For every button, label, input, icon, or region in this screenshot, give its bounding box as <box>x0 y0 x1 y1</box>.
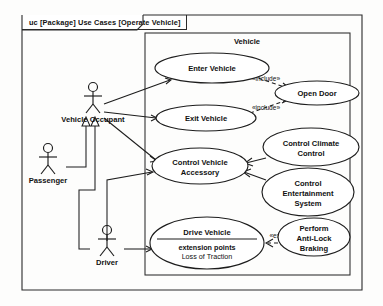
actor-driver-label: Driver <box>96 258 118 267</box>
use-case-control-entertainment-system-label-3: System <box>294 199 321 208</box>
use-case-perform-anti-lock-braking-label-1: Perform <box>299 224 328 233</box>
actor-driver-leg-right <box>107 247 114 256</box>
use-case-perform-anti-lock-braking-label-2: Anti-Lock <box>296 234 332 243</box>
use-case-control-entertainment-system-label-1: Control <box>295 179 322 188</box>
actor-vehicle-occupant-leg-right <box>93 104 100 113</box>
assoc-occupant-control-accessory <box>104 118 156 160</box>
system-boundary-label: Vehicle <box>234 37 260 46</box>
use-case-exit-vehicle-label: Exit Vehicle <box>185 114 227 123</box>
actor-passenger-label: Passenger <box>29 176 67 185</box>
use-case-control-entertainment-system-label-2: Entertainment <box>282 189 334 198</box>
use-case-control-vehicle-accessory-label-2: Accessory <box>181 168 220 177</box>
assoc-occupant-enter-vehicle <box>104 80 170 104</box>
use-case-control-vehicle-accessory-label-1: Control Vehicle <box>172 158 227 167</box>
diagram-frame-header-notch <box>22 15 143 30</box>
diagram-canvas: Vehicle «include» «include» <box>0 0 383 306</box>
use-case-perform-anti-lock-braking-label-3: Braking <box>300 244 329 253</box>
assoc-entertainment-to-accessory <box>244 172 266 180</box>
actor-vehicle-occupant-label: Vehicle Occupant <box>61 115 125 124</box>
actor-passenger-head <box>44 144 53 153</box>
actor-passenger-leg-left <box>41 165 48 174</box>
include-exit-open-door-label: «include» <box>252 104 281 111</box>
use-case-open-door-label: Open Door <box>297 89 336 98</box>
actor-vehicle-occupant-leg-left <box>86 104 93 113</box>
use-case-control-climate-control-label-1: Control Climate <box>283 139 340 148</box>
use-case-diagram: uc [Package] Use Cases [Operate Vehicle]… <box>0 0 383 306</box>
drive-vehicle-extension-points-label: extension points <box>178 243 235 252</box>
gen-passenger-to-occupant <box>66 126 86 167</box>
actor-vehicle-occupant[interactable]: Vehicle Occupant <box>61 83 125 125</box>
use-case-control-climate-control-label-2: Control <box>298 149 325 158</box>
actor-vehicle-occupant-head <box>89 83 98 92</box>
actor-driver-leg-left <box>100 247 107 256</box>
gen-driver-to-occupant <box>79 126 95 249</box>
actor-passenger[interactable]: Passenger <box>29 144 67 186</box>
drive-vehicle-extension-point: Loss of Traction <box>182 252 233 261</box>
use-case-drive-vehicle-title: Drive Vehicle <box>183 228 230 237</box>
use-case-enter-vehicle-label: Enter Vehicle <box>188 64 236 73</box>
actor-passenger-leg-right <box>48 165 55 174</box>
